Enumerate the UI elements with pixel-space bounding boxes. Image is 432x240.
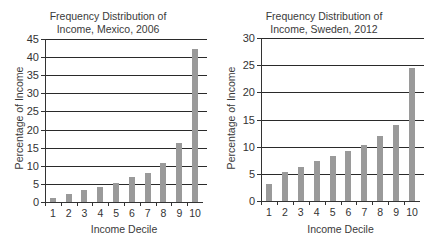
y-tick-label: 35	[15, 69, 39, 81]
bar-decile-2	[282, 172, 288, 201]
x-tick-mark	[372, 201, 373, 205]
y-tick-label: 5	[15, 178, 39, 190]
x-tick-mark	[187, 202, 188, 206]
x-tick-mark	[77, 202, 78, 206]
gridline	[45, 184, 207, 185]
gridline	[45, 93, 207, 94]
bar-decile-10	[409, 68, 415, 201]
bar-decile-7	[145, 173, 151, 202]
bar-decile-1	[266, 184, 272, 201]
x-tick-mark	[124, 202, 125, 206]
x-tick-mark	[156, 202, 157, 206]
x-tick-mark	[45, 202, 46, 206]
bar-decile-6	[345, 151, 351, 201]
bar-decile-8	[377, 136, 383, 201]
x-axis-label: Income Decile	[261, 223, 420, 235]
x-tick-label: 1	[45, 207, 61, 219]
title-line-1: Frequency Distribution of	[0, 10, 216, 23]
x-tick-label: 3	[293, 206, 309, 218]
x-tick-label: 2	[277, 206, 293, 218]
bar-decile-9	[176, 143, 182, 202]
x-tick-mark	[356, 201, 357, 205]
y-tick-label: 30	[231, 32, 255, 44]
x-tick-mark	[293, 201, 294, 205]
gridline	[45, 111, 207, 112]
x-tick-label: 9	[171, 207, 187, 219]
bar-decile-5	[330, 156, 336, 201]
gridline	[45, 39, 207, 40]
bar-decile-8	[160, 163, 166, 202]
gridline	[261, 65, 424, 66]
gridline	[261, 38, 424, 39]
mexico-income-chart: Frequency Distribution of Income, Mexico…	[0, 0, 216, 240]
x-tick-mark	[388, 201, 389, 205]
bar-decile-9	[393, 125, 399, 201]
x-tick-label: 1	[261, 206, 277, 218]
y-tick-label: 10	[15, 160, 39, 172]
x-tick-label: 10	[404, 206, 420, 218]
y-tick-label: 45	[15, 33, 39, 45]
bar-decile-4	[314, 161, 320, 201]
y-tick-label: 20	[231, 86, 255, 98]
x-tick-mark	[92, 202, 93, 206]
x-tick-label: 3	[77, 207, 93, 219]
x-tick-label: 9	[388, 206, 404, 218]
x-tick-label: 8	[372, 206, 388, 218]
sweden-income-chart: Frequency Distribution of Income, Sweden…	[216, 0, 432, 240]
x-tick-label: 2	[61, 207, 77, 219]
plot-area	[45, 39, 203, 202]
gridline	[261, 120, 424, 121]
x-tick-mark	[404, 201, 405, 205]
x-tick-label: 4	[92, 207, 108, 219]
gridline	[261, 92, 424, 93]
gridline	[45, 75, 207, 76]
bar-decile-4	[97, 187, 103, 202]
x-axis-label: Income Decile	[45, 223, 203, 235]
y-axis	[261, 38, 262, 202]
x-tick-mark	[171, 202, 172, 206]
x-tick-mark	[108, 202, 109, 206]
gridline	[45, 130, 207, 131]
x-tick-mark	[341, 201, 342, 205]
bar-decile-10	[192, 49, 198, 202]
y-tick-label: 15	[231, 114, 255, 126]
x-tick-label: 5	[108, 207, 124, 219]
plot-area	[261, 38, 420, 201]
y-tick-label: 0	[231, 195, 255, 207]
bar-decile-3	[81, 190, 87, 202]
y-tick-label: 30	[15, 87, 39, 99]
bar-decile-5	[113, 183, 119, 202]
x-tick-mark	[261, 201, 262, 205]
x-tick-label: 5	[325, 206, 341, 218]
y-tick-label: 25	[15, 105, 39, 117]
y-tick-label: 20	[15, 124, 39, 136]
x-tick-label: 7	[356, 206, 372, 218]
gridline	[261, 147, 424, 148]
title-line-1: Frequency Distribution of	[216, 10, 432, 23]
x-tick-mark	[61, 202, 62, 206]
y-tick-label: 15	[15, 142, 39, 154]
y-tick-label: 5	[231, 168, 255, 180]
y-tick-label: 0	[15, 196, 39, 208]
gridline	[45, 148, 207, 149]
y-axis	[45, 39, 46, 203]
bar-decile-3	[298, 167, 304, 201]
gridline	[45, 57, 207, 58]
y-tick-label: 40	[15, 51, 39, 63]
x-tick-label: 4	[309, 206, 325, 218]
x-tick-label: 8	[156, 207, 172, 219]
y-tick-label: 10	[231, 141, 255, 153]
x-tick-label: 10	[187, 207, 203, 219]
bar-decile-2	[66, 194, 72, 202]
y-tick-label: 25	[231, 59, 255, 71]
x-tick-mark	[140, 202, 141, 206]
x-tick-mark	[309, 201, 310, 205]
x-tick-mark	[325, 201, 326, 205]
bar-decile-6	[129, 177, 135, 202]
bar-decile-7	[361, 145, 367, 201]
x-tick-mark	[277, 201, 278, 205]
x-tick-label: 7	[140, 207, 156, 219]
x-tick-label: 6	[124, 207, 140, 219]
x-tick-label: 6	[340, 206, 356, 218]
gridline	[45, 166, 207, 167]
